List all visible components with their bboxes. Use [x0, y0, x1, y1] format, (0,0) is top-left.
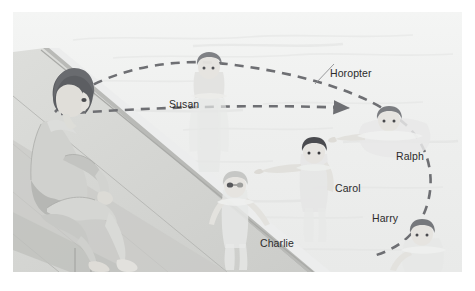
illustration-page: Susan Horopter Ralph Carol Charlie Harry	[0, 0, 475, 291]
label-susan: Susan	[169, 98, 199, 110]
pool-scene-figure: Susan Horopter Ralph Carol Charlie Harry	[13, 12, 462, 272]
label-ralph: Ralph	[396, 150, 424, 162]
label-charlie: Charlie	[260, 237, 294, 249]
label-horopter: Horopter	[330, 67, 372, 79]
label-harry: Harry	[372, 212, 398, 224]
label-carol: Carol	[335, 182, 361, 194]
scene-svg	[13, 12, 462, 272]
